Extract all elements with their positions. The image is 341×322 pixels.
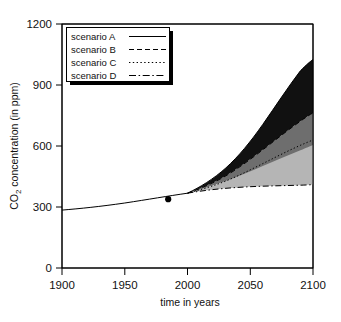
y-axis-title-post: concentration (in ppm): [8, 82, 20, 189]
y-axis-tick-labels: 1200 900 600 300 0: [26, 18, 52, 274]
legend-label-scenario-b: scenario B: [71, 44, 116, 55]
x-tick-label-2000: 2000: [175, 279, 201, 291]
legend-label-scenario-d: scenario D: [71, 70, 117, 81]
x-tick-label-1950: 1950: [112, 279, 138, 291]
svg-text:CO2 concentration (in ppm): CO2 concentration (in ppm): [8, 82, 23, 210]
y-axis-title-pre: CO: [8, 194, 20, 210]
x-axis-tick-labels: 1900 1950 2000 2050 2100: [49, 279, 326, 291]
y-tick-label-600: 600: [33, 140, 52, 152]
x-axis-ticks: [62, 268, 313, 275]
legend[interactable]: scenario A scenario B scenario C scenari…: [67, 28, 174, 86]
y-axis-ticks: [56, 24, 62, 268]
y-tick-label-900: 900: [33, 79, 52, 91]
y-tick-label-300: 300: [33, 201, 52, 213]
y-axis-title: CO2 concentration (in ppm): [8, 82, 23, 210]
y-tick-label-0: 0: [46, 262, 52, 274]
legend-label-scenario-a: scenario A: [71, 31, 116, 42]
y-tick-label-1200: 1200: [26, 18, 52, 30]
x-axis-title: time in years: [160, 296, 220, 308]
x-tick-label-2100: 2100: [300, 279, 326, 291]
x-tick-label-2050: 2050: [238, 279, 264, 291]
observation-marker-dot: [165, 196, 171, 202]
chart-canvas: 1200 900 600 300 0 1900 1950 2000 2050 2…: [0, 0, 341, 322]
chart-figure: 1200 900 600 300 0 1900 1950 2000 2050 2…: [0, 0, 341, 322]
legend-label-scenario-c: scenario C: [71, 57, 117, 68]
x-tick-label-1900: 1900: [49, 279, 75, 291]
